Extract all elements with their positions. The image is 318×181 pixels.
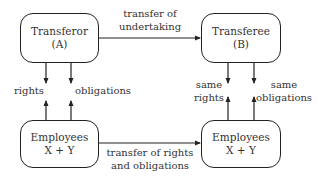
node-employees-right-title: Employees [212, 131, 270, 144]
label-right-same-obligations: same obligations [256, 79, 312, 104]
node-employees-left-title: Employees [31, 131, 89, 144]
node-employees-right-subtitle: X + Y [226, 144, 256, 157]
label-left-obligations: obligations [75, 85, 131, 98]
label-right-same-rights-line1: same [192, 79, 226, 92]
label-right-same-rights: same rights [192, 79, 226, 104]
label-right-same-obligations-line2: obligations [256, 92, 312, 105]
node-employees-right: Employees X + Y [201, 120, 281, 168]
node-transferor-title: Transferor [31, 25, 88, 38]
node-employees-left-subtitle: X + Y [45, 144, 75, 157]
label-left-rights: rights [14, 85, 44, 98]
label-transfer-of-undertaking-line1: transfer of [110, 8, 190, 21]
node-transferor: Transferor (A) [20, 13, 99, 63]
label-right-same-obligations-line1: same [256, 79, 312, 92]
node-transferee-title: Transferee [212, 25, 270, 38]
node-employees-left: Employees X + Y [20, 120, 99, 168]
label-transfer-of-rights: transfer of rights and obligations [100, 147, 200, 172]
node-transferee: Transferee (B) [201, 13, 281, 63]
label-transfer-of-rights-line1: transfer of rights [100, 147, 200, 160]
label-transfer-of-undertaking-line2: undertaking [110, 21, 190, 34]
label-transfer-of-undertaking: transfer of undertaking [110, 8, 190, 33]
node-transferee-subtitle: (B) [233, 38, 249, 51]
node-transferor-subtitle: (A) [52, 38, 68, 51]
label-transfer-of-rights-line2: and obligations [100, 160, 200, 173]
label-right-same-rights-line2: rights [192, 92, 226, 105]
